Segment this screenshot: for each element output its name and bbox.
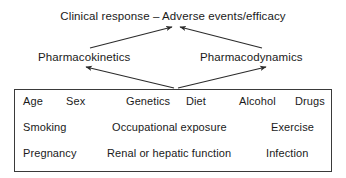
- arrow-factors-to-pk: [86, 67, 174, 88]
- factor-row: AgeSexGeneticsDietAlcoholDrugs: [15, 95, 331, 113]
- factors-box: AgeSexGeneticsDietAlcoholDrugs SmokingOc…: [14, 89, 332, 172]
- arrow-factors-to-pd: [178, 67, 266, 88]
- factor-item: Pregnancy: [23, 147, 77, 159]
- node-pharmacodynamics: Pharmacodynamics: [200, 51, 303, 63]
- factor-item: Sex: [66, 95, 85, 107]
- factor-item: Renal or hepatic function: [107, 147, 231, 159]
- factor-item: Age: [23, 95, 43, 107]
- arrow-pd-to-outcome: [180, 27, 262, 48]
- factor-item: Diet: [186, 95, 206, 107]
- factor-item: Occupational exposure: [112, 121, 227, 133]
- node-pharmacokinetics: Pharmacokinetics: [38, 51, 130, 63]
- arrow-pk-to-outcome: [90, 27, 172, 48]
- diagram-canvas: Clinical response – Adverse events/effic…: [0, 0, 346, 178]
- factor-item: Genetics: [126, 95, 170, 107]
- factor-item: Smoking: [23, 121, 67, 133]
- factor-row: PregnancyRenal or hepatic functionInfect…: [15, 147, 331, 165]
- node-clinical-response: Clinical response – Adverse events/effic…: [60, 10, 285, 22]
- factor-item: Alcohol: [239, 95, 276, 107]
- factor-item: Drugs: [295, 95, 325, 107]
- factor-item: Infection: [266, 147, 308, 159]
- factor-row: SmokingOccupational exposureExercise: [15, 121, 331, 139]
- factor-item: Exercise: [271, 121, 314, 133]
